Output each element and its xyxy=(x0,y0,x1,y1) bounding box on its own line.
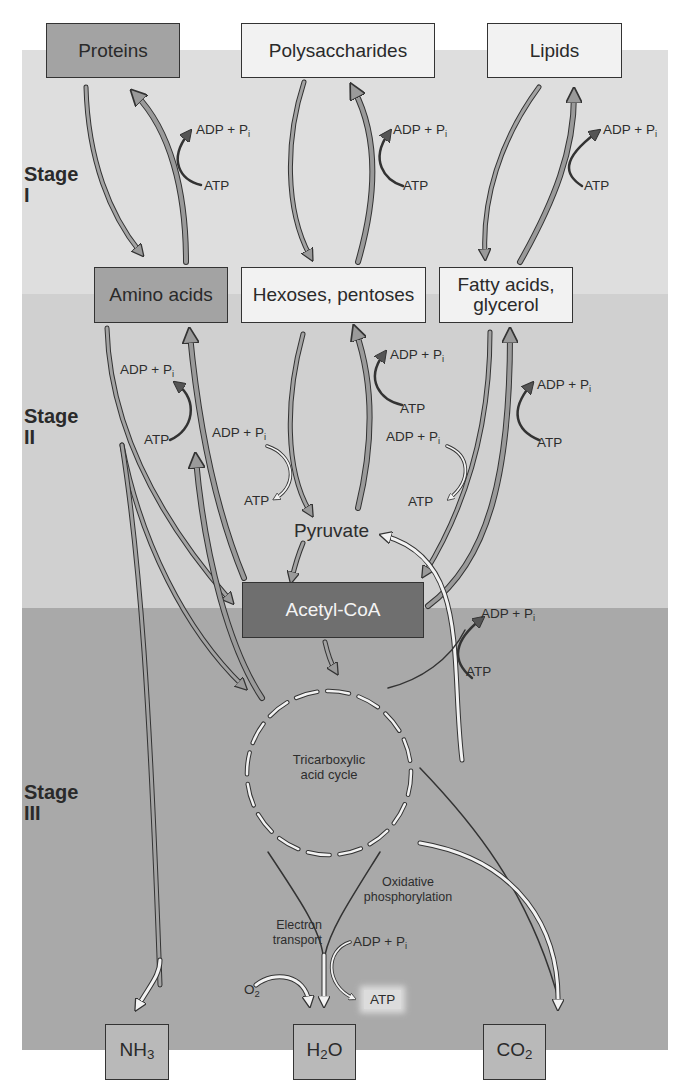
lipids-box: Lipids xyxy=(487,23,622,78)
pyruvate-label: Pyruvate xyxy=(294,520,369,542)
adp-pi-label: ADP + Pi xyxy=(390,347,444,364)
atp-label: ATP xyxy=(364,990,401,1009)
atp-label: ATP xyxy=(537,435,562,450)
h2o-box: H2O xyxy=(293,1024,356,1080)
atp-label: ATP xyxy=(408,494,433,509)
adp-pi-label: ADP + Pi xyxy=(603,122,657,139)
atp-label: ATP xyxy=(466,664,491,679)
fatty-acids-glycerol-box: Fatty acids,glycerol xyxy=(439,267,573,323)
adp-pi-label: ADP + Pi xyxy=(353,934,407,951)
oxidative-phosphorylation-label: Oxidativephosphorylation xyxy=(352,875,464,905)
amino-acids-box: Amino acids xyxy=(94,267,228,323)
adp-pi-label: ADP + Pi xyxy=(196,122,250,139)
proteins-box: Proteins xyxy=(46,23,180,78)
adp-pi-label: ADP + Pi xyxy=(481,606,535,623)
adp-pi-label: ADP + Pi xyxy=(537,377,591,394)
polysaccharides-box: Polysaccharides xyxy=(241,23,435,78)
adp-pi-label: ADP + Pi xyxy=(386,429,440,446)
adp-pi-label: ADP + Pi xyxy=(120,362,174,379)
co2-box: CO2 xyxy=(483,1024,546,1080)
atp-label: ATP xyxy=(144,432,169,447)
pathway-arrows xyxy=(0,0,676,1092)
atp-label: ATP xyxy=(244,493,269,508)
atp-label: ATP xyxy=(400,401,425,416)
atp-label: ATP xyxy=(204,178,229,193)
tca-cycle-label: Tricarboxylicacid cycle xyxy=(283,752,375,782)
atp-label: ATP xyxy=(403,178,428,193)
adp-pi-label: ADP + Pi xyxy=(212,425,266,442)
electron-transport-label: Electrontransport xyxy=(254,918,322,948)
hexoses-pentoses-box: Hexoses, pentoses xyxy=(241,267,426,323)
o2-label: O2 xyxy=(244,982,260,999)
nh3-box: NH3 xyxy=(105,1024,169,1080)
atp-label: ATP xyxy=(584,178,609,193)
acetyl-coa-box: Acetyl-CoA xyxy=(242,582,424,638)
adp-pi-label: ADP + Pi xyxy=(393,122,447,139)
